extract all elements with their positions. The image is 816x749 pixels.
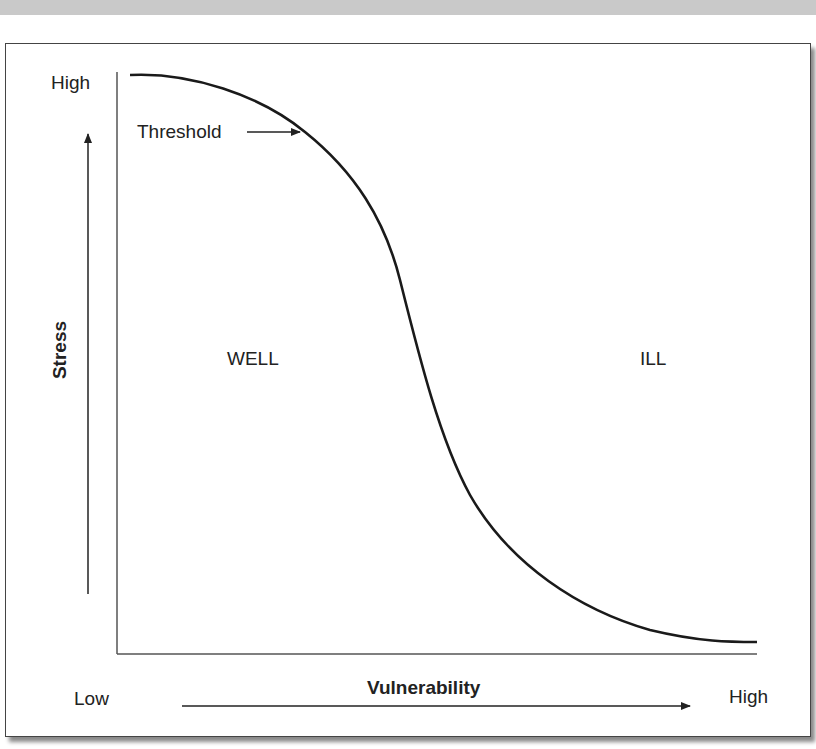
y-high-label: High: [51, 72, 90, 94]
threshold-label: Threshold: [137, 121, 222, 143]
x-low-label: Low: [74, 688, 109, 710]
y-axis-title: Stress: [49, 321, 71, 379]
region-ill-label: ILL: [640, 348, 666, 370]
chart-plot: [0, 0, 816, 749]
region-well-label: WELL: [227, 348, 279, 370]
x-high-label: High: [729, 686, 768, 708]
x-axis-title: Vulnerability: [367, 677, 480, 699]
